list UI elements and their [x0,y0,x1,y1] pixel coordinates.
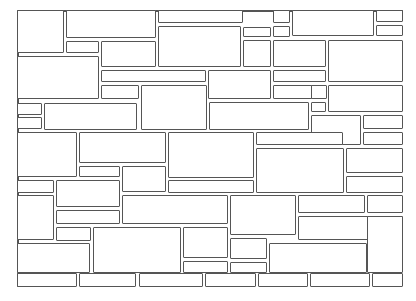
stone-block [243,40,271,67]
stone-block [101,70,206,82]
stone-block [79,166,120,177]
stone-block [256,148,344,193]
stone-block [93,227,181,273]
stone-block [17,103,42,115]
stone-block [269,243,367,273]
stone-block [367,195,403,213]
stone-block [230,238,267,259]
stone-block [311,102,326,112]
stone-block [346,148,403,173]
stone-block [66,10,156,38]
stone-block [79,132,166,163]
stone-block [208,70,271,99]
stone-block [230,262,267,273]
stone-block [17,117,42,129]
stone-block [122,166,166,192]
stone-block [17,195,54,240]
stone-block [158,10,243,23]
stone-block [66,41,99,53]
stone-block [376,25,403,36]
stone-block [56,227,91,241]
stone-block [168,180,254,193]
stone-block [122,195,228,224]
stone-block [376,10,403,22]
stone-block [292,10,374,36]
stone-block [346,176,403,193]
stone-block [183,261,228,273]
stone-block [363,115,403,129]
stone-block [17,132,77,177]
stone-block [310,273,370,287]
stone-block [273,70,326,82]
stone-block [17,243,90,273]
stone-block [311,85,327,99]
stone-block [372,273,403,287]
stone-wall-diagram [0,0,416,301]
stone-block [209,102,309,130]
stone-block [101,41,156,67]
stone-block [158,26,241,67]
stone-block [273,40,326,67]
stone-block [17,273,77,287]
stone-block [141,85,207,130]
stone-block [17,180,54,193]
stone-block [363,132,403,145]
stone-block [168,132,254,178]
stone-block [139,273,203,287]
stone-block [256,132,343,145]
stone-block [56,180,120,207]
stone-block [101,85,139,99]
stone-block [56,210,120,224]
stone-block [79,273,136,287]
stone-block [328,40,403,82]
stone-block [298,195,365,213]
stone-block [183,227,228,258]
stone-block [205,273,256,287]
stone-block [367,216,403,273]
stone-block [273,26,290,37]
stone-block [328,85,403,112]
stone-block [44,103,137,130]
stone-block [273,10,290,23]
stone-block [17,56,99,99]
stone-block [243,27,271,37]
stone-block [230,195,296,235]
stone-block [17,10,64,53]
stone-block [258,273,308,287]
